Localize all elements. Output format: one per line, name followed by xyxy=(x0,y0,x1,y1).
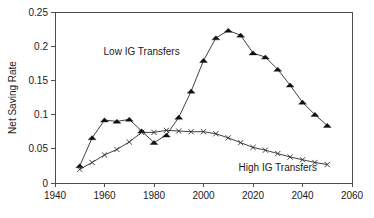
caption-strip xyxy=(0,210,374,218)
x-tick-label: 1960 xyxy=(93,190,116,201)
net-saving-rate-line-chart: 00.050.10.150.20.25 19401960198020002020… xyxy=(0,0,374,218)
x-tick-label: 2060 xyxy=(341,190,364,201)
y-tick-label: 0 xyxy=(42,178,48,189)
y-tick-label: 0.2 xyxy=(34,41,48,52)
y-tick-label: 0.15 xyxy=(29,75,49,86)
x-tick-label: 2000 xyxy=(192,190,215,201)
y-tick-label: 0.05 xyxy=(29,143,49,154)
x-tick-label: 1980 xyxy=(143,190,166,201)
y-tick-label: 0.1 xyxy=(34,109,48,120)
x-tick-label: 2020 xyxy=(242,190,265,201)
y-axis-title: Net Saving Rate xyxy=(7,61,18,134)
plot-background xyxy=(0,0,374,218)
series-label-high-ig-transfers: High IG Transfers xyxy=(239,162,317,173)
chart-container: 00.050.10.150.20.25 19401960198020002020… xyxy=(0,0,374,218)
x-tick-label: 2040 xyxy=(291,190,314,201)
series-label-low-ig-transfers: Low IG Transfers xyxy=(104,46,180,57)
y-tick-label: 0.25 xyxy=(29,7,49,18)
y-axis-title-text: Net Saving Rate xyxy=(7,61,18,134)
x-tick-label: 1940 xyxy=(44,190,67,201)
